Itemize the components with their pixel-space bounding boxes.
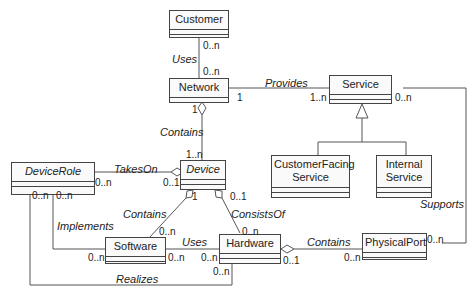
mult-service-supports: 0..n (395, 92, 412, 103)
mult-software-implements: 0..n (88, 252, 105, 263)
mult-role-realizes: 0..n (32, 190, 49, 201)
label-consists-of: ConsistsOf (231, 208, 285, 220)
mult-device-takes-on: 0..1 (163, 177, 180, 188)
mult-device-contains: 1..n (186, 149, 203, 160)
mult-role-takes-on: 0..n (95, 177, 112, 188)
mult-network-contains: 1 (192, 104, 198, 115)
mult-hardware-contains: 0..1 (283, 255, 300, 266)
label-contains-device-software: Contains (123, 208, 166, 220)
label-provides: Provides (265, 77, 308, 89)
mult-role-implements: 0..n (56, 190, 73, 201)
class-name: Software (106, 238, 165, 257)
mult-service-provides: 1..n (310, 92, 327, 103)
label-uses-software-hardware: Uses (182, 236, 207, 248)
mult-device-consists-of: 0..1 (230, 191, 247, 202)
mult-software-uses: 0..n (168, 252, 185, 263)
label-contains-hardware-port: Contains (307, 236, 350, 248)
mult-port-contains: 0..n (344, 252, 361, 263)
class-internal-service[interactable]: InternalService (376, 155, 432, 198)
class-name: Network (170, 79, 228, 98)
class-name: CustomerFacingService (272, 156, 349, 188)
class-software[interactable]: Software (105, 237, 166, 264)
class-name: Hardware (220, 235, 280, 254)
label-uses: Uses (172, 53, 197, 65)
class-device-role[interactable]: DeviceRole (11, 162, 95, 195)
class-service[interactable]: Service (329, 75, 392, 104)
class-name: Service (330, 76, 391, 95)
class-device[interactable]: Device (180, 160, 226, 190)
label-takes-on: TakesOn (114, 163, 158, 175)
class-name: PhysicalPort (363, 234, 426, 253)
class-hardware[interactable]: Hardware (219, 234, 281, 264)
mult-network-provides: 1 (237, 92, 243, 103)
mult-hardware-uses: 0..n (201, 252, 218, 263)
mult-software-contains: 0..n (159, 226, 176, 237)
class-name: InternalService (377, 156, 431, 188)
mult-hardware-realizes: 0..n (213, 266, 230, 277)
label-supports: Supports (420, 198, 464, 210)
class-name: Device (181, 161, 225, 180)
mult-device-contains-software: 1 (192, 191, 198, 202)
mult-network-uses: 0..n (203, 66, 220, 77)
class-network[interactable]: Network (169, 78, 229, 103)
mult-port-supports: 0..n (427, 234, 444, 245)
label-implements: Implements (57, 220, 114, 232)
class-name: Customer (170, 11, 228, 30)
label-realizes: Realizes (116, 273, 158, 285)
label-contains-network-device: Contains (160, 126, 203, 138)
mult-hardware-consists-of: 0..n (242, 226, 259, 237)
class-customer[interactable]: Customer (169, 10, 229, 38)
mult-customer-uses: 0..n (203, 40, 220, 51)
class-name: DeviceRole (12, 163, 94, 182)
class-customer-facing-service[interactable]: CustomerFacingService (271, 155, 350, 198)
class-physical-port[interactable]: PhysicalPort (362, 233, 427, 260)
